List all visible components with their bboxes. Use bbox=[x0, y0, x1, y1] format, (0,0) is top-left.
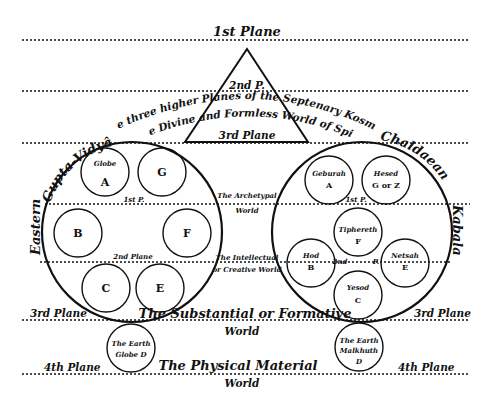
septenary-planes-diagram: 1st Plane The three higher Planes of the… bbox=[0, 0, 493, 405]
globe-a: Globe A bbox=[81, 148, 129, 196]
svg-text:F: F bbox=[355, 236, 361, 246]
svg-text:A: A bbox=[100, 176, 110, 189]
right-inner-2nd-label-b: P. bbox=[372, 257, 380, 266]
svg-text:D: D bbox=[355, 357, 363, 366]
svg-text:Netsah: Netsah bbox=[390, 251, 419, 260]
svg-text:B: B bbox=[73, 227, 82, 240]
svg-text:The Earth: The Earth bbox=[339, 336, 378, 345]
svg-text:Globe D: Globe D bbox=[115, 350, 147, 359]
svg-text:Hod: Hod bbox=[302, 251, 319, 260]
globe-f: F bbox=[163, 209, 211, 257]
left-earth-globe: The Earth Globe D bbox=[107, 324, 155, 372]
svg-text:Geburah: Geburah bbox=[312, 169, 346, 178]
svg-text:G or Z: G or Z bbox=[372, 180, 400, 190]
second-plane-short-label: 2nd P. bbox=[228, 79, 265, 91]
substantial-world-line1: The Substantial or Formative bbox=[139, 306, 352, 321]
fourth-plane-right-label: 4th Plane bbox=[398, 361, 455, 373]
right-inner-2nd-label-a: 2nd bbox=[332, 257, 348, 266]
left-inner-2nd-plane-label: 2nd Plane bbox=[112, 252, 153, 261]
intellectual-world-line1: The Intellectual bbox=[216, 253, 279, 262]
svg-text:F: F bbox=[183, 227, 191, 240]
svg-text:Yesod: Yesod bbox=[347, 283, 369, 292]
archetypal-world-line2: World bbox=[235, 206, 258, 215]
sephira-hod: Hod B bbox=[287, 239, 335, 287]
globe-c: C bbox=[82, 264, 130, 312]
physical-world-line2: World bbox=[225, 377, 260, 389]
svg-text:Malkhuth: Malkhuth bbox=[339, 346, 378, 355]
sephira-tiphereth: Tiphereth F bbox=[334, 208, 382, 256]
arched-text-line2: The Divine and Formless World of Spirit bbox=[0, 0, 355, 139]
left-title-eastern: Eastern bbox=[28, 199, 43, 256]
intellectual-world-line2: or Creative World bbox=[212, 265, 281, 274]
svg-text:C: C bbox=[355, 295, 361, 305]
arched-text-line1: The three higher Planes of the Septenary… bbox=[0, 0, 378, 132]
right-inner-1st-plane-label: 1st P. bbox=[345, 195, 366, 204]
right-earth-malkhuth: The Earth Malkhuth D bbox=[335, 323, 383, 371]
first-plane-label: 1st Plane bbox=[213, 24, 281, 39]
svg-text:E: E bbox=[156, 282, 164, 295]
left-inner-1st-plane-label: 1st P. bbox=[123, 195, 144, 204]
right-title-kabala: Kabala bbox=[450, 204, 465, 256]
substantial-world-line2: World bbox=[225, 325, 260, 337]
left-title-gupta-vidya: Gupta-Vidyâ bbox=[39, 134, 114, 204]
triangle-third-plane-label: 3rd Plane bbox=[219, 129, 276, 141]
svg-text:Hesed: Hesed bbox=[373, 169, 398, 178]
archetypal-world-line1: The Archetypal bbox=[217, 191, 277, 200]
svg-text:G: G bbox=[157, 166, 166, 179]
svg-text:Globe: Globe bbox=[94, 159, 117, 168]
third-plane-right-label: 3rd Plane bbox=[414, 307, 471, 319]
globe-g: G bbox=[138, 148, 186, 196]
svg-text:Tiphereth: Tiphereth bbox=[339, 225, 378, 234]
third-plane-left-label: 3rd Plane bbox=[30, 307, 87, 319]
svg-text:The Earth: The Earth bbox=[111, 339, 150, 348]
fourth-plane-left-label: 4th Plane bbox=[44, 361, 101, 373]
svg-text:B: B bbox=[308, 262, 315, 272]
svg-text:E: E bbox=[402, 262, 408, 272]
svg-text:A: A bbox=[325, 180, 333, 190]
svg-text:C: C bbox=[102, 282, 111, 295]
globe-e: E bbox=[136, 264, 184, 312]
sephira-netsah: Netsah E bbox=[381, 239, 429, 287]
globe-b: B bbox=[54, 209, 102, 257]
sephira-hesed: Hesed G or Z bbox=[362, 156, 410, 204]
physical-world-line1: The Physical Material bbox=[158, 358, 317, 373]
